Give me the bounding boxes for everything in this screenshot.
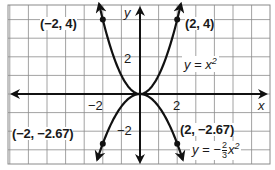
fraction-two-thirds: 23 (222, 141, 227, 160)
point-label-neg2-4: (−2, 4) (40, 17, 77, 30)
equation-label-y-equals-x-squared: y = x2 (182, 56, 219, 72)
point-marker (174, 17, 180, 23)
tick-label-x-2: 2 (173, 99, 180, 112)
equation-exponent: 2 (212, 56, 217, 66)
x-axis-label: x (258, 99, 265, 112)
equation-exponent: 2 (234, 141, 239, 151)
point-marker (174, 141, 180, 147)
point-label-2-neg2.67: (2, −2.67) (180, 123, 234, 136)
tick-label-y-neg2: −2 (117, 124, 132, 137)
equation-text: y = − (192, 142, 221, 157)
fraction-denominator: 3 (222, 151, 227, 160)
point-label-neg2-neg2.67: (−2, −2.67) (12, 127, 73, 140)
point-label-2-4: (2, 4) (185, 17, 214, 30)
y-axis-label: y (124, 6, 131, 19)
equation-text: y = x (184, 57, 212, 72)
point-marker (100, 17, 106, 23)
tick-label-x-neg2: −2 (88, 99, 103, 112)
tick-label-y-2: 2 (124, 52, 131, 65)
equation-label-y-equals-neg-two-thirds-x-squared: y = −23x2 (190, 141, 241, 160)
point-marker (100, 141, 106, 147)
